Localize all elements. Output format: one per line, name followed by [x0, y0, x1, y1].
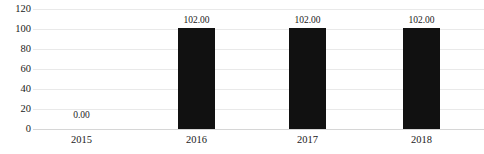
- bar[interactable]: [403, 28, 440, 129]
- bar-series: 0.00 102.00 102.00 102.00: [33, 9, 484, 130]
- y-axis: 120 100 80 60 40 20 0: [0, 0, 31, 154]
- x-axis-tick-label: 2017: [283, 133, 332, 146]
- plot-area: 0.00 102.00 102.00 102.00: [33, 9, 484, 130]
- bar-slot: 102.00: [178, 9, 215, 130]
- bar-value-label: 102.00: [379, 15, 464, 26]
- y-axis-tick-label: 120: [0, 3, 31, 14]
- bar-value-label: 0.00: [39, 110, 124, 121]
- y-axis-tick-label: 60: [0, 63, 31, 74]
- y-axis-tick-label: 40: [0, 83, 31, 94]
- bar[interactable]: [289, 28, 326, 129]
- y-axis-tick-label: 100: [0, 23, 31, 34]
- bar-value-label: 102.00: [265, 15, 350, 26]
- y-axis-tick-label: 20: [0, 103, 31, 114]
- y-axis-tick-label: 80: [0, 43, 31, 54]
- x-axis-tick-label: 2016: [172, 133, 221, 146]
- bar-chart: 120 100 80 60 40 20 0 0.00 10: [0, 0, 484, 154]
- bar-value-label: 102.00: [154, 15, 239, 26]
- x-axis-tick-label: 2015: [57, 133, 106, 146]
- bar-slot: 0.00: [63, 9, 100, 130]
- bar-slot: 102.00: [289, 9, 326, 130]
- x-axis-tick-label: 2018: [397, 133, 446, 146]
- bar[interactable]: [178, 28, 215, 129]
- x-axis: 2015 2016 2017 2018: [33, 133, 484, 151]
- y-axis-tick-label: 0: [0, 123, 31, 134]
- bar-slot: 102.00: [403, 9, 440, 130]
